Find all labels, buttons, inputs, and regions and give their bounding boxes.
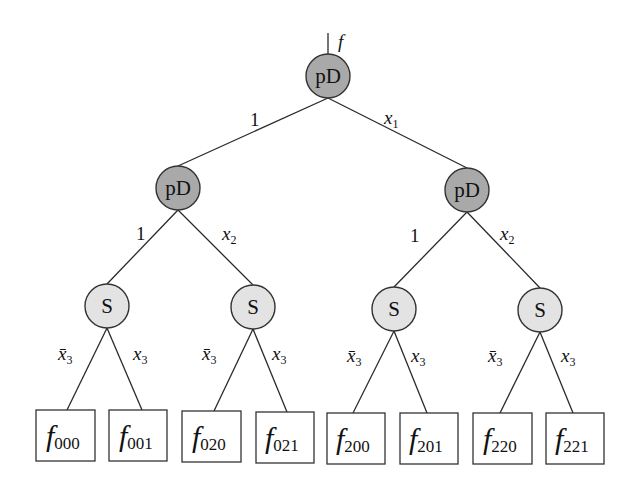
label-s3-left: x̄3	[346, 345, 361, 369]
level2-node-left: pD	[156, 166, 200, 210]
edge-s1-right	[107, 328, 142, 410]
edge-l2a-right	[178, 210, 253, 285]
root-node-label: pD	[315, 64, 341, 88]
edge-l2a-left	[107, 210, 178, 284]
level3-node-2: S	[231, 285, 275, 329]
s-node-label: S	[388, 297, 400, 321]
level2-node-right: pD	[445, 168, 489, 212]
leaf-f001: f001	[109, 410, 167, 461]
edge-s3-right	[394, 331, 427, 413]
leaf-f201: f201	[400, 413, 458, 464]
label-l2a-right: x2	[221, 223, 236, 247]
s-node-label: S	[101, 294, 113, 318]
label-s4-right: x3	[560, 345, 575, 369]
root-output-label: f	[338, 31, 346, 52]
leaf-f000: f000	[36, 410, 95, 461]
edge-s2-right	[253, 329, 287, 412]
label-s1-right: x3	[132, 343, 147, 367]
decision-tree-diagram: f 1 x1 1 x2 1 x2 x̄3 x3 x̄3 x3 x̄3 x3 x̄…	[0, 0, 642, 492]
leaf-f020: f020	[182, 411, 241, 462]
pd-node-label: pD	[165, 176, 191, 200]
label-s2-left: x̄3	[201, 343, 216, 367]
root-node: pD	[306, 54, 350, 98]
edge-s3-left	[353, 331, 394, 413]
label-root-left: 1	[250, 109, 260, 130]
edge-s1-left	[67, 328, 107, 410]
leaf-f021: f021	[256, 412, 314, 463]
label-s3-right: x3	[410, 345, 425, 369]
label-l2b-right: x2	[499, 223, 514, 247]
level3-node-3: S	[372, 287, 416, 331]
label-root-right: x1	[383, 107, 398, 131]
edge-l2b-left	[394, 212, 467, 287]
label-l2b-left: 1	[410, 225, 420, 246]
edge-s2-left	[214, 329, 253, 411]
level3-node-4: S	[518, 288, 562, 332]
s-node-label: S	[247, 295, 259, 319]
pd-node-label: pD	[454, 178, 480, 202]
leaf-f200: f200	[327, 413, 385, 464]
leaf-f221: f221	[546, 413, 604, 464]
label-l2a-left: 1	[136, 223, 146, 244]
label-s4-left: x̄3	[487, 345, 502, 369]
s-node-label: S	[534, 298, 546, 322]
label-s1-left: x̄3	[57, 343, 72, 367]
leaf-f220: f220	[473, 413, 532, 464]
level3-node-1: S	[85, 284, 129, 328]
edge-root-right	[328, 98, 467, 168]
edge-s4-left	[500, 332, 540, 413]
label-s2-right: x3	[271, 343, 286, 367]
